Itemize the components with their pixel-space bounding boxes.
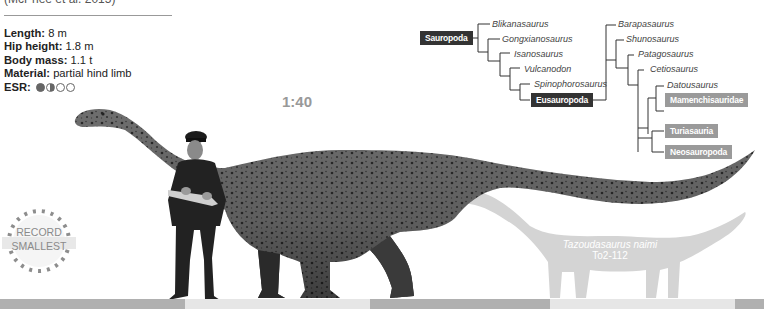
badge-line-1: RECORD [0, 226, 78, 238]
scale-bar-segment [185, 299, 370, 309]
taxon-label: Gongxianosaurus [502, 34, 573, 44]
taxon-label: Spinophorosaurus [534, 79, 607, 89]
juvenile-label: Juvenile [560, 227, 660, 239]
taxon-label: Cetiosaurus [650, 64, 698, 74]
illustration [0, 0, 764, 309]
scale-bar-segment [550, 299, 735, 309]
clade-neosauropoda: Neosauropoda [665, 145, 732, 159]
taxon-label: Barapasaurus [618, 19, 674, 29]
scale-bar [0, 299, 764, 309]
clade-mamenchisauridae: Mamenchisauridae [665, 93, 748, 107]
clade-turiasauria: Turiasauria [665, 124, 718, 138]
taxon-label: Blikanasaurus [492, 19, 549, 29]
badge-line-2: SMALLEST [0, 240, 78, 252]
taxon-label: Shunosaurus [626, 34, 679, 44]
clade-sauropoda: Sauropoda [420, 31, 473, 45]
scale-bar-segment [370, 299, 550, 309]
taxon-label: Datousaurus [667, 80, 718, 90]
juvenile-caption: Juvenile Tazoudasaurus naimi To2-112 [560, 227, 660, 262]
taxon-label: Vulcanodon [524, 64, 571, 74]
juvenile-specimen: To2-112 [560, 250, 660, 262]
juvenile-species: Tazoudasaurus naimi [560, 239, 660, 251]
taxon-label: Isanosaurus [514, 49, 563, 59]
clade-eusauropoda: Eusauropoda [531, 93, 593, 107]
scale-bar-segment [0, 299, 185, 309]
taxon-label: Patagosaurus [638, 49, 694, 59]
scale-bar-segment [735, 299, 764, 309]
